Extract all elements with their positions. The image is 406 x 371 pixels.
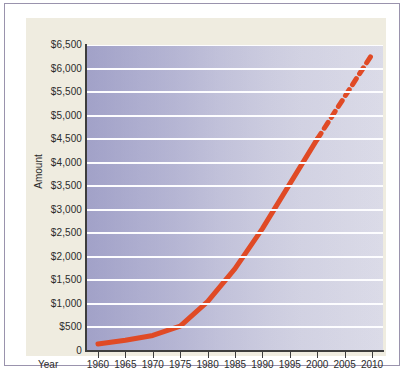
gridline <box>87 326 383 328</box>
series-line-actual <box>98 139 317 344</box>
y-tick-label: $5,000 <box>51 111 82 121</box>
x-tick <box>153 352 154 358</box>
gridline <box>87 138 383 140</box>
x-tick <box>262 352 263 358</box>
chart-paper: 0$500$1,000$1,500$2,000$2,500$3,000$3,50… <box>26 18 386 356</box>
y-axis-title: Amount <box>33 142 44 202</box>
y-tick-label: $6,000 <box>51 64 82 74</box>
y-tick-label: $1,000 <box>51 299 82 309</box>
y-tick-label: $4,500 <box>51 134 82 144</box>
gridline <box>87 115 383 117</box>
gridline <box>87 209 383 211</box>
gridline <box>87 162 383 164</box>
x-tick <box>235 352 236 358</box>
y-tick-label: $500 <box>59 322 82 332</box>
x-tick <box>317 352 318 358</box>
x-tick <box>125 352 126 358</box>
figure-frame: 0$500$1,000$1,500$2,000$2,500$3,000$3,50… <box>4 3 400 366</box>
x-axis-title: Year <box>38 359 58 370</box>
y-tick-label: $4,000 <box>51 158 82 168</box>
gridline <box>87 68 383 70</box>
gridline <box>87 303 383 305</box>
y-axis-line <box>85 44 87 352</box>
y-tick-label: $2,500 <box>51 228 82 238</box>
plot-area <box>87 45 383 351</box>
x-tick <box>290 352 291 358</box>
y-tick-label: $1,500 <box>51 275 82 285</box>
y-tick-label: $5,500 <box>51 87 82 97</box>
gridline <box>87 279 383 281</box>
gridline <box>87 185 383 187</box>
gridline <box>87 232 383 234</box>
x-tick <box>98 352 99 358</box>
x-tick <box>345 352 346 358</box>
x-tick-label: 2010 <box>356 359 388 370</box>
y-tick-label: $3,000 <box>51 205 82 215</box>
y-tick-label: 0 <box>76 346 82 356</box>
gridline <box>87 45 383 46</box>
x-tick <box>372 352 373 358</box>
y-tick-label: $6,500 <box>51 40 82 50</box>
gridline <box>87 256 383 258</box>
y-tick-label: $2,000 <box>51 252 82 262</box>
y-tick-label: $3,500 <box>51 181 82 191</box>
gridline <box>87 91 383 93</box>
x-tick <box>180 352 181 358</box>
x-tick <box>208 352 209 358</box>
